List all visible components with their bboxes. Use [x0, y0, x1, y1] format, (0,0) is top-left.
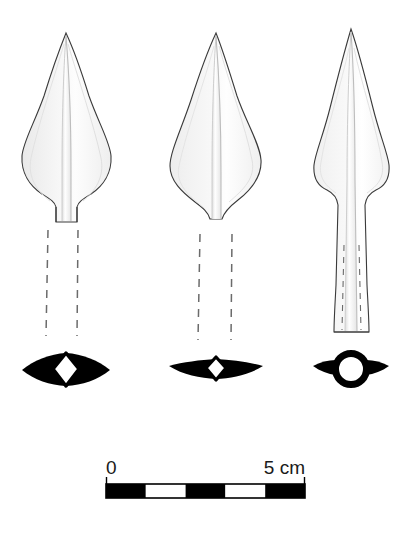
- spearhead-view-a: [22, 33, 111, 336]
- cross-section-b: [169, 357, 263, 380]
- artifact-illustration: 0 5 cm: [0, 0, 405, 533]
- spearhead-view-b: [170, 33, 261, 340]
- cross-section-a: [22, 353, 110, 386]
- scale-segment-2: [186, 484, 226, 498]
- scale-start-label: 0: [106, 457, 117, 478]
- scale-segment-3: [225, 484, 265, 498]
- scale-segment-0: [106, 484, 146, 498]
- figure-canvas: 0 5 cm: [0, 0, 405, 533]
- view-b-socket-dashed-left: [198, 234, 200, 340]
- view-a-socket-dashed-left: [46, 230, 48, 336]
- spearhead-view-c: [314, 29, 389, 332]
- view-a-socket-dashed-right: [77, 230, 78, 336]
- scale-bar: 0 5 cm: [106, 457, 305, 498]
- scale-segment-1: [146, 484, 186, 498]
- cross-section-c: [313, 354, 389, 385]
- view-b-socket-dashed-right: [231, 234, 232, 340]
- scale-end-label: 5 cm: [264, 457, 305, 478]
- cross-section-c-socket-ring: [336, 354, 367, 385]
- scale-segment-4: [265, 484, 305, 498]
